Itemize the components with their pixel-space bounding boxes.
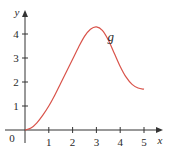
curve-label: g xyxy=(107,29,114,44)
x-tick-label: 4 xyxy=(117,136,123,148)
y-tick-label: 2 xyxy=(13,76,19,88)
origin-label: 0 xyxy=(9,132,15,144)
y-axis-label: y xyxy=(14,6,20,18)
y-tick-label: 4 xyxy=(13,28,19,40)
curve-g xyxy=(25,27,144,130)
x-tick-label: 1 xyxy=(46,136,52,148)
x-tick-label: 2 xyxy=(70,136,76,148)
y-tick-label: 3 xyxy=(13,52,19,64)
x-tick-label: 3 xyxy=(94,136,100,148)
chart: 1234512340xyg xyxy=(0,0,170,153)
x-axis-arrow-icon xyxy=(156,127,163,133)
x-axis-label: x xyxy=(157,134,163,146)
y-axis-arrow-icon xyxy=(22,10,28,17)
y-tick-label: 1 xyxy=(13,100,19,112)
x-tick-label: 5 xyxy=(141,136,147,148)
